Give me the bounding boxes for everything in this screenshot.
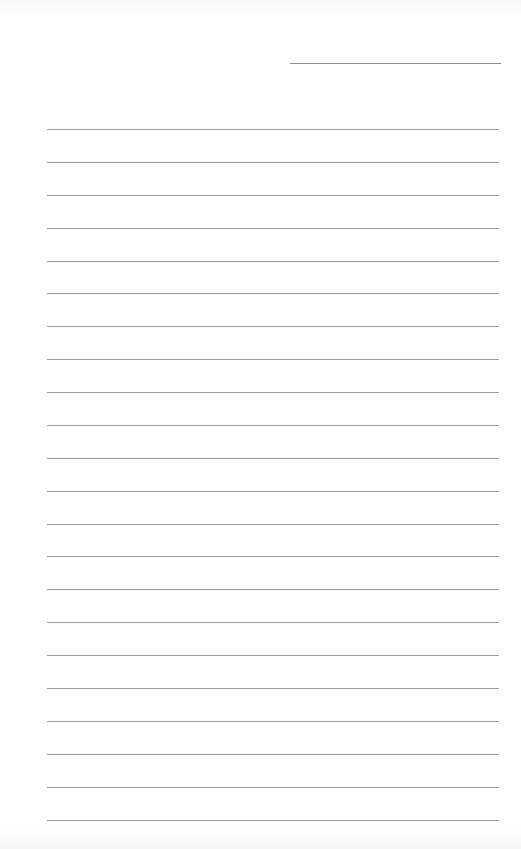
ruled-line: [47, 655, 499, 656]
ruled-line: [47, 721, 499, 722]
lined-page: [0, 0, 521, 849]
ruled-line: [47, 129, 499, 130]
ruled-line: [47, 491, 499, 492]
ruled-line: [47, 293, 499, 294]
ruled-line: [47, 622, 499, 623]
ruled-line: [47, 524, 499, 525]
ruled-line: [47, 195, 499, 196]
ruled-line: [47, 754, 499, 755]
ruled-line: [47, 820, 499, 821]
ruled-line: [47, 425, 499, 426]
ruled-line: [47, 458, 499, 459]
ruled-line: [47, 589, 499, 590]
ruled-line: [47, 556, 499, 557]
ruled-line: [47, 162, 499, 163]
header-line: [290, 63, 501, 64]
ruled-line: [47, 359, 499, 360]
ruled-line: [47, 688, 499, 689]
bottom-edge-bleed: [0, 829, 521, 849]
ruled-line: [47, 326, 499, 327]
ruled-line: [47, 228, 499, 229]
ruled-line: [47, 261, 499, 262]
top-edge-bleed: [0, 0, 521, 14]
ruled-line: [47, 392, 499, 393]
ruled-line: [47, 787, 499, 788]
